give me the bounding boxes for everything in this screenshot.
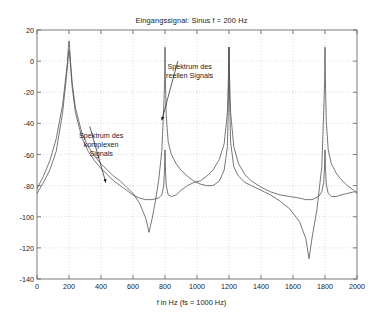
y-tick-label: -120: [20, 243, 34, 252]
x-tick-label: 1000: [189, 282, 205, 291]
x-tick-label: 200: [63, 282, 75, 291]
y-tick-label: 0: [30, 57, 34, 66]
y-tick-label: 20: [26, 26, 34, 35]
y-tick-label: -40: [24, 119, 34, 128]
x-tick-label: 1800: [317, 282, 333, 291]
x-tick-label: 600: [127, 282, 139, 291]
x-tick-label: 1400: [253, 282, 269, 291]
x-tick-label: 800: [159, 282, 171, 291]
x-tick-label: 2000: [349, 282, 365, 291]
y-tick-label: -80: [24, 181, 34, 190]
annotation-komplexes-spektrum: Spektrum deskomplexenSignals: [79, 131, 123, 159]
y-tick-label: -100: [20, 212, 34, 221]
x-tick-label: 0: [35, 282, 39, 291]
plot-area: [0, 0, 383, 319]
y-tick-label: -140: [20, 275, 34, 284]
y-tick-label: -20: [24, 88, 34, 97]
x-tick-label: 1200: [221, 282, 237, 291]
x-tick-label: 400: [95, 282, 107, 291]
figure-canvas: Eingangssignal: Sinus f = 200 Hz 0200400…: [0, 0, 383, 319]
annotation-reelles-spektrum: Spektrum desreellen Signals: [166, 62, 213, 80]
x-axis-label: f in Hz (fs = 1000 Hz): [0, 298, 383, 307]
x-tick-label: 1600: [285, 282, 301, 291]
y-tick-label: -60: [24, 150, 34, 159]
